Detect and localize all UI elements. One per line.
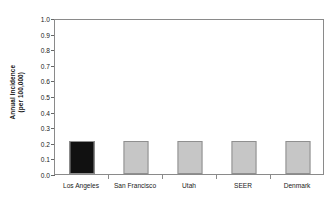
x-axis-separator [270,175,271,179]
bar-slot [217,20,271,174]
y-axis-tick-label: 0.6 [26,78,50,85]
x-axis-separators [54,175,324,179]
y-axis-tick-label: 0.7 [26,62,50,69]
bar-slot [55,20,109,174]
bars-layer [55,20,323,174]
y-axis-tick-label: 0.3 [26,125,50,132]
x-axis-tick-label: Los Angeles [54,181,108,190]
bar-slot [109,20,163,174]
plot-area [54,19,324,175]
bar[interactable] [178,141,203,174]
bar-slot [271,20,325,174]
bar[interactable] [124,141,149,174]
y-axis-tick-label: 1.0 [26,16,50,23]
x-axis-separator [162,175,163,179]
x-axis-separator [216,175,217,179]
y-axis-tick-label: 0.4 [26,109,50,116]
bar[interactable] [286,141,311,174]
x-axis-separator [108,175,109,179]
y-axis-tick-label: 0.0 [26,172,50,179]
bar-chart-figure: Annual Incidence (per 100,000) 1.00.90.8… [0,0,334,207]
x-axis-tick-label: Utah [162,181,216,190]
bar[interactable] [232,141,257,174]
y-axis-tick-label: 0.9 [26,31,50,38]
x-axis-tick-label: SEER [216,181,270,190]
y-axis-tick-labels: 1.00.90.80.70.60.50.40.30.20.10.0 [26,19,50,175]
y-axis-title: Annual Incidence (per 100,000) [6,0,28,185]
y-axis-title-line-1: Annual Incidence [9,65,17,120]
bar-slot [163,20,217,174]
bar[interactable] [70,141,95,174]
y-axis-title-line-2: (per 100,000) [17,65,25,120]
y-axis-tick-label: 0.1 [26,156,50,163]
y-axis-tick-label: 0.8 [26,47,50,54]
y-axis-tick-label: 0.2 [26,140,50,147]
x-axis-tick-label: San Francisco [108,181,162,190]
x-axis-tick-labels: Los AngelesSan FranciscoUtahSEERDenmark [54,181,324,195]
x-axis-tick-label: Denmark [270,181,324,190]
y-axis-tick-label: 0.5 [26,94,50,101]
